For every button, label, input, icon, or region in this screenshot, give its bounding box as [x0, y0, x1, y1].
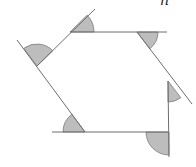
upper-right-side-line [137, 32, 192, 104]
upper-left-side-line [37, 9, 95, 66]
hexagon-exterior-angles-diagram [0, 0, 196, 167]
exterior-angle-right [168, 81, 181, 102]
lower-left-side-line [17, 40, 85, 132]
exterior-angle-bottom-right [146, 132, 169, 155]
variable-label: n [160, 0, 169, 7]
